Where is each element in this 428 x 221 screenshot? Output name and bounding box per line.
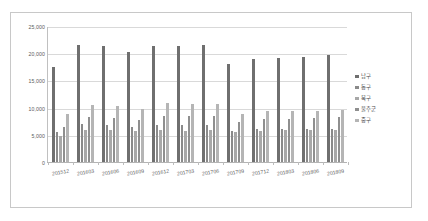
bar [181,125,184,162]
bar-group [298,27,323,162]
bar [259,131,262,162]
x-axis-tick-label: 201809 [326,167,344,176]
x-axis-tick-label: 201612 [151,167,169,176]
x-axis-tick-label: 201709 [226,167,244,176]
legend-item[interactable]: 북구 [355,95,411,102]
bar-group [273,27,298,162]
bar [152,46,155,162]
x-axis-tick-label: 201712 [251,167,269,176]
bar [288,119,291,162]
bar-group [198,27,223,162]
bar [202,45,205,162]
bar [106,125,109,162]
bar [327,55,330,162]
bar-group [73,27,98,162]
bar [131,127,134,162]
legend-item[interactable]: 동구 [355,84,411,91]
bar [213,116,216,163]
x-axis-tick-mark [273,162,274,165]
x-axis-line [47,162,347,163]
bar-group [248,27,273,162]
chart-frame: 05,00010,00015,00020,00025,000 201512201… [10,12,412,208]
legend-swatch-icon [355,119,359,123]
bar [263,119,266,162]
legend-item-label: 동구 [361,84,371,91]
bar-groups [48,27,347,162]
legend-item-label: 북구 [361,95,371,102]
bar [306,129,309,162]
bar [231,131,234,162]
bar [116,106,119,162]
x-axis-tick-label: 201606 [101,167,119,176]
x-axis-tick-mark [198,162,199,165]
x-axis-tick-mark [48,162,49,165]
bar [81,124,84,162]
bar [281,129,284,162]
x-axis-tick-label: 201512 [51,167,69,176]
bar [206,125,209,162]
bar [163,116,166,163]
bar [141,109,144,162]
chart-legend: 남구동구북구울주군중구 [355,73,411,128]
bar [59,136,62,162]
legend-swatch-icon [355,86,359,90]
bar [102,46,105,162]
x-axis-tick-label: 201703 [176,167,194,176]
bar [188,116,191,163]
x-axis-tick-mark [223,162,224,165]
x-axis-tick-label: 201803 [276,167,294,176]
bar [184,131,187,162]
y-axis-tick-label: 0 [42,160,45,166]
x-axis-tick-label: 201806 [301,167,319,176]
bar [88,117,91,162]
bar-group [223,27,248,162]
x-axis-tick-labels: 2015122016032016062016092016122017032017… [47,167,347,185]
x-axis-tick-mark [73,162,74,165]
bar [127,52,130,162]
bar [256,129,259,162]
bar [177,46,180,162]
bar [138,120,141,162]
y-axis-tick-label: 25,000 [29,24,45,30]
legend-item[interactable]: 남구 [355,73,411,80]
bar [159,130,162,162]
bar [252,59,255,162]
bar [91,105,94,162]
legend-item[interactable]: 울주군 [355,106,411,113]
bar [63,127,66,162]
bar-group [173,27,198,162]
bar [284,130,287,162]
bar [109,130,112,162]
bar [331,129,334,162]
bar-group [148,27,173,162]
legend-swatch-icon [355,97,359,101]
bar [302,57,305,162]
x-axis-tick-mark [173,162,174,165]
x-axis-tick-mark [323,162,324,165]
bar [241,114,244,162]
bar [166,103,169,162]
bar [309,130,312,162]
bar [277,58,280,162]
bar [341,110,344,162]
bar [209,130,212,162]
bar-group [48,27,73,162]
y-axis-tick-label: 10,000 [29,106,45,112]
x-axis-tick-label: 201609 [126,167,144,176]
bar [52,67,55,162]
y-axis-tick-label: 5,000 [32,133,45,139]
legend-item[interactable]: 중구 [355,117,411,124]
x-axis-tick-mark [123,162,124,165]
x-axis-tick-mark [348,162,349,165]
bar [77,45,80,162]
bar [66,114,69,162]
y-axis-tick-label: 15,000 [29,78,45,84]
y-axis-tick-label: 20,000 [29,51,45,57]
bar [291,111,294,162]
bar [56,132,59,162]
bar [234,132,237,162]
bar [113,118,116,162]
bar-group [323,27,348,162]
bar [238,122,241,162]
x-axis-tick-mark [98,162,99,165]
